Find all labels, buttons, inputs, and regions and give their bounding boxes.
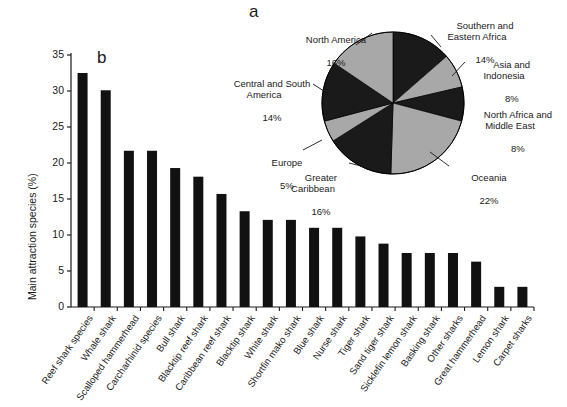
y-tick-label: 0 (40, 300, 64, 312)
bar (170, 168, 180, 307)
bar (101, 90, 111, 307)
panel-b-bar-chart: b Main attraction species (%) 0510152025… (0, 0, 567, 407)
y-tick-label: 35 (40, 48, 64, 60)
bar (286, 220, 296, 307)
bar (471, 262, 481, 307)
bar (425, 253, 435, 307)
bar (147, 151, 157, 307)
bar (355, 236, 365, 307)
y-tick-label: 15 (40, 192, 64, 204)
bar (448, 253, 458, 307)
y-tick-label: 30 (40, 84, 64, 96)
bar (240, 211, 250, 307)
bar (379, 244, 389, 307)
y-tick-label: 20 (40, 156, 64, 168)
figure-container: a North America 16% Southern and Eastern… (0, 0, 567, 407)
bar (517, 287, 527, 307)
bar (309, 228, 319, 307)
bar (78, 73, 88, 307)
y-tick-label: 10 (40, 228, 64, 240)
bar (402, 253, 412, 307)
y-tick-label: 25 (40, 120, 64, 132)
bar (193, 177, 203, 307)
bar (216, 194, 226, 307)
bar (494, 287, 504, 307)
bar (263, 220, 273, 307)
bar (332, 228, 342, 307)
y-tick-label: 5 (40, 264, 64, 276)
bar (124, 151, 134, 307)
